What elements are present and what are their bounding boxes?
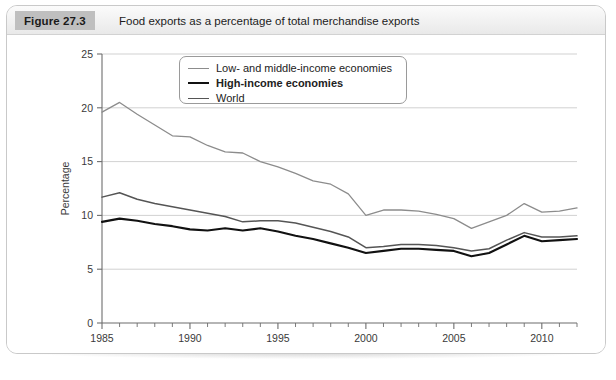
legend-swatch-low-middle-income [188,68,209,69]
x-axis-ticks: 198519901995200020052010 [90,323,577,344]
legend-label-high-income: High-income economies [216,78,343,89]
y-axis-ticks: 0510152025 [81,48,102,329]
legend-item-high-income: High-income economies [188,76,406,90]
svg-text:25: 25 [81,48,93,60]
svg-text:1995: 1995 [266,332,290,344]
legend-label-world: World [216,93,245,104]
svg-text:20: 20 [81,102,93,114]
figure-header-bar: Figure 27.3 Food exports as a percentage… [7,6,605,35]
svg-text:2010: 2010 [530,332,554,344]
svg-text:0: 0 [87,317,93,329]
data-series-group [102,102,577,256]
legend-item-low-middle-income: Low- and middle-income economies [188,61,406,75]
svg-text:2005: 2005 [442,332,466,344]
legend-swatch-high-income [188,82,209,84]
svg-text:15: 15 [81,155,93,167]
svg-text:1985: 1985 [90,332,114,344]
svg-text:5: 5 [87,263,93,275]
figure-number-badge: Figure 27.3 [15,11,95,30]
figure-caption: Food exports as a percentage of total me… [119,11,419,30]
svg-text:10: 10 [81,209,93,221]
y-axis-title: Percentage [59,161,71,215]
legend-item-world: World [188,91,406,105]
figure-card: Figure 27.3 Food exports as a percentage… [6,5,606,354]
legend-swatch-world [188,98,209,99]
svg-text:2000: 2000 [354,332,378,344]
svg-text:1990: 1990 [178,332,202,344]
chart-legend: Low- and middle-income economies High-in… [179,56,407,104]
legend-label-low-middle-income: Low- and middle-income economies [216,63,392,74]
